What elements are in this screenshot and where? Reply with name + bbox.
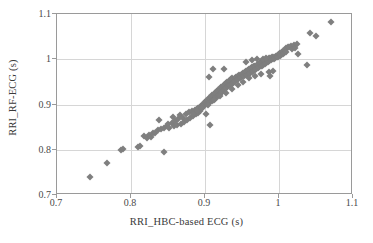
data-point-marker	[304, 61, 311, 68]
data-point-marker	[327, 19, 334, 26]
data-point-marker	[205, 73, 212, 80]
data-point-marker	[221, 65, 228, 72]
x-axis-tick-mark	[56, 194, 57, 198]
x-axis-tick-mark	[204, 194, 205, 198]
x-axis-tick-mark	[352, 194, 353, 198]
x-axis-tick-label: 0.7	[50, 197, 63, 208]
data-point-marker	[160, 149, 167, 156]
x-axis-tick-label: 0.9	[198, 197, 211, 208]
y-axis-title-text: RRI_RF-ECG (s)	[7, 59, 18, 136]
plot-area	[56, 13, 352, 194]
x-axis-tick-label: 1.1	[346, 197, 359, 208]
data-points-layer	[57, 14, 351, 193]
y-axis-tick-mark	[52, 13, 56, 14]
data-point-marker	[210, 66, 217, 73]
y-axis-tick-label: 0.9	[39, 98, 52, 109]
x-axis-tick-mark	[278, 194, 279, 198]
data-point-marker	[270, 67, 277, 74]
y-axis-tick-label: 1	[46, 53, 51, 64]
scatter-chart-figure: RRI_RF-ECG (s) 0.70.80.911.1 0.70.80.911…	[0, 0, 373, 243]
data-point-marker	[156, 116, 163, 123]
data-point-marker	[312, 32, 319, 39]
y-axis-tick-mark	[52, 104, 56, 105]
x-axis-tick-label: 1	[276, 197, 281, 208]
y-axis-tick-label: 1.1	[39, 8, 52, 19]
x-axis-tick-mark	[130, 194, 131, 198]
data-point-marker	[202, 110, 209, 117]
y-axis-tick-mark	[52, 194, 56, 195]
y-axis-tick-mark	[52, 58, 56, 59]
x-axis-title: RRI_HBC-based ECG (s)	[0, 216, 373, 227]
x-axis-tick-label: 0.8	[124, 197, 137, 208]
data-point-marker	[103, 160, 110, 167]
y-axis-tick-label: 0.8	[39, 143, 52, 154]
data-point-marker	[207, 121, 214, 128]
data-point-marker	[228, 86, 235, 93]
y-axis-tick-mark	[52, 149, 56, 150]
y-axis-title: RRI_RF-ECG (s)	[4, 0, 20, 194]
data-point-marker	[86, 174, 93, 181]
data-point-marker	[295, 50, 302, 57]
